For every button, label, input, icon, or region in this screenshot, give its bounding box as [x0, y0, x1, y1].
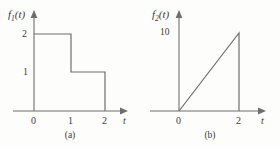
- y-tick-label-a-2: 2: [22, 29, 27, 39]
- y-axis-arrowhead-b: [176, 10, 183, 18]
- x-axis-arrowhead-b: [258, 108, 266, 115]
- y-axis-arrowhead-a: [31, 10, 38, 18]
- caption-a: (a): [0, 131, 140, 141]
- x-axis-label-a: t: [123, 116, 126, 126]
- y-tick-label-b-10: 10: [160, 28, 170, 38]
- x-tick-label-b-0: 0: [176, 116, 181, 126]
- x-tick-label-a-2: 2: [102, 116, 107, 126]
- x-tick-label-a-1: 1: [68, 116, 73, 126]
- plot-panel-a: f1(t) 2 1 0 1 2 t (a): [0, 0, 140, 148]
- ramp-function-curve-b: [179, 33, 239, 111]
- plot-panel-b: f2(t) 10 0 2 t (b): [140, 0, 280, 148]
- figure-container: f1(t) 2 1 0 1 2 t (a) f2(t) 10 0 2 t (b): [0, 0, 280, 148]
- caption-b: (b): [140, 131, 280, 141]
- step-function-curve-a: [34, 34, 105, 111]
- y-tick-label-a-1: 1: [23, 67, 28, 77]
- x-tick-label-a-0: 0: [31, 116, 36, 126]
- x-tick-label-b-2: 2: [236, 116, 241, 126]
- y-axis-label-b: f2(t): [152, 9, 169, 23]
- x-axis-label-b: t: [261, 116, 264, 126]
- y-axis-label-a: f1(t): [8, 9, 25, 23]
- x-axis-arrowhead-a: [120, 108, 128, 115]
